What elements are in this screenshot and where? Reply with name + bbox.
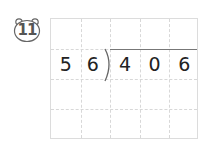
dividend-digit: 4 — [110, 49, 140, 79]
grid-line — [51, 79, 197, 80]
grid-line — [51, 109, 197, 110]
divisor-digit: 5 — [51, 49, 81, 79]
problem-number-badge: 11 — [13, 17, 41, 41]
answer-grid: 5 6 4 0 6 — [50, 18, 198, 139]
divisor-digit: 6 — [78, 49, 108, 79]
dividend-digit: 0 — [140, 49, 170, 79]
dividend-digit: 6 — [169, 49, 199, 79]
problem-number: 11 — [13, 21, 41, 39]
